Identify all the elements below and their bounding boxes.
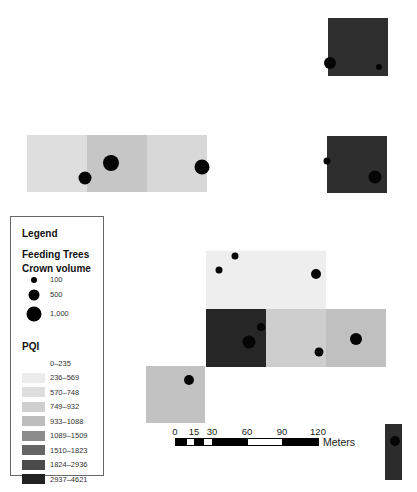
scale-segment [282, 438, 319, 446]
feeding-tree-marker [79, 172, 92, 185]
size-symbol-icon [29, 290, 40, 301]
pqi-swatch [22, 373, 45, 383]
pqi-cell [146, 366, 205, 423]
feeding-tree-marker [257, 323, 265, 331]
feeding-tree-marker [324, 57, 336, 69]
scale-tick-label: 30 [207, 426, 218, 437]
pqi-swatch [22, 416, 45, 426]
pqi-class-label: 933–1088 [50, 417, 83, 426]
feeding-tree-marker [184, 375, 194, 385]
feeding-tree-marker [243, 336, 256, 349]
pqi-cell [206, 309, 266, 367]
pqi-swatch [22, 474, 45, 484]
feeding-tree-marker [311, 269, 321, 279]
pqi-swatch [22, 431, 45, 441]
pqi-swatch [22, 445, 45, 455]
size-symbol-icon [27, 307, 42, 322]
size-label: 1,000 [50, 309, 69, 318]
pqi-swatch [22, 402, 45, 412]
legend-layer-name: Feeding Trees [22, 249, 89, 260]
legend-pqi-title: PQI [22, 341, 39, 352]
size-symbol-icon [31, 277, 37, 283]
pqi-cell [327, 136, 387, 193]
feeding-tree-marker [390, 436, 400, 446]
pqi-class-label: 570–748 [50, 388, 79, 397]
scale-segment [212, 438, 248, 446]
feeding-tree-marker [103, 155, 119, 171]
feeding-tree-marker [232, 253, 239, 260]
pqi-cell [27, 135, 87, 192]
pqi-swatch [22, 460, 45, 470]
pqi-class-label: 236–569 [50, 373, 79, 382]
feeding-tree-marker [324, 158, 331, 165]
size-label: 500 [50, 290, 63, 299]
scale-tick-label: 15 [189, 426, 200, 437]
pqi-class-label: 0–235 [50, 359, 71, 368]
pqi-class-label: 1510–1823 [50, 446, 88, 455]
scale-tick-label: 0 [172, 426, 177, 437]
scale-segment [247, 438, 283, 446]
pqi-class-label: 749–932 [50, 402, 79, 411]
scale-tick-label: 90 [277, 426, 288, 437]
feeding-tree-marker [350, 333, 362, 345]
scale-unit: Meters [323, 436, 355, 448]
pqi-cell [266, 309, 326, 367]
scale-tick-label: 60 [242, 426, 253, 437]
legend-title: Legend [22, 228, 58, 239]
feeding-tree-marker [376, 64, 382, 70]
pqi-class-label: 1089–1509 [50, 431, 88, 440]
legend-size-title: Crown volume [22, 263, 91, 274]
feeding-tree-marker [195, 160, 210, 175]
pqi-class-label: 1824–2936 [50, 460, 88, 469]
size-label: 100 [50, 275, 63, 284]
feeding-tree-marker [315, 348, 324, 357]
feeding-tree-marker [369, 171, 382, 184]
pqi-class-label: 2937–4621 [50, 475, 88, 484]
feeding-tree-marker [216, 267, 223, 274]
legend: Legend Feeding Trees Crown volume 100500… [10, 216, 104, 476]
pqi-swatch [22, 387, 45, 397]
pqi-cell [206, 251, 326, 309]
pqi-cell [385, 424, 402, 480]
